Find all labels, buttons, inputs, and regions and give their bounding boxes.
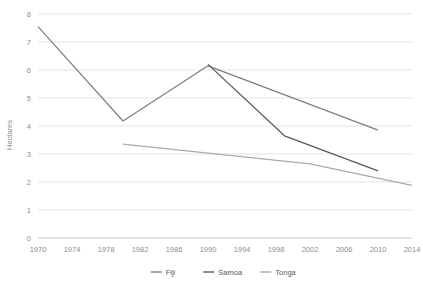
y-axis-tick-label: 8	[27, 10, 31, 19]
y-axis-title: Hectares	[5, 120, 14, 150]
y-axis-tick-label: 0	[27, 234, 31, 243]
y-axis-tick-label: 7	[27, 38, 31, 47]
y-axis-title-text: Hectares	[5, 120, 14, 150]
x-axis-tick-label: 2006	[336, 245, 353, 254]
chart-legend: FijiSamoaTonga	[151, 268, 297, 277]
y-axis-tick-label: 6	[27, 66, 31, 75]
y-axis-tick-label: 4	[27, 122, 31, 131]
y-axis-tick-label: 5	[27, 94, 31, 103]
x-axis-tick-label: 2002	[302, 245, 319, 254]
x-axis-tick-label: 1990	[200, 245, 217, 254]
x-axis-tick-label: 1978	[98, 245, 115, 254]
x-axis-tick-labels: 1970197419781982198619901994199820022006…	[30, 245, 421, 254]
y-axis-tick-label: 2	[27, 178, 31, 187]
y-axis-tick-label: 3	[27, 150, 31, 159]
legend-label-fiji: Fiji	[166, 268, 176, 277]
series-line-tonga	[123, 144, 412, 185]
legend-label-tonga: Tonga	[275, 268, 296, 277]
line-chart: 012345678 197019741978198219861990199419…	[0, 0, 423, 292]
gridlines	[38, 14, 412, 238]
x-axis-tick-label: 1986	[166, 245, 183, 254]
x-axis-tick-label: 2010	[370, 245, 387, 254]
x-axis-tick-label: 1994	[234, 245, 251, 254]
chart-canvas: 012345678 197019741978198219861990199419…	[0, 0, 423, 292]
data-series	[38, 27, 412, 186]
x-axis-tick-label: 1982	[132, 245, 149, 254]
series-line-samoa	[208, 64, 378, 170]
x-axis-tick-label: 1998	[268, 245, 285, 254]
legend-label-samoa: Samoa	[218, 268, 243, 277]
y-axis-tick-label: 1	[27, 206, 31, 215]
y-axis-tick-labels: 012345678	[27, 10, 31, 243]
x-axis-tick-label: 1974	[64, 245, 81, 254]
x-axis-tick-label: 1970	[30, 245, 47, 254]
x-axis-tick-label: 2014	[404, 245, 421, 254]
